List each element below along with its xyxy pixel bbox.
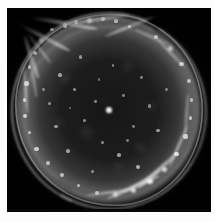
corner-vignette xyxy=(7,8,211,212)
astronomical-image-figure: Monochrome astronomical image of a rough… xyxy=(0,0,215,222)
plate-bottom-bar xyxy=(7,209,211,212)
image-plate xyxy=(7,8,211,212)
